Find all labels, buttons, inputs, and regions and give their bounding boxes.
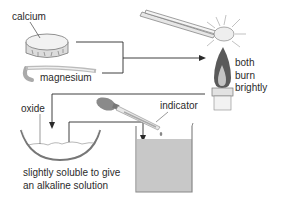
oxide-label: oxide	[21, 103, 45, 115]
calcium-disc-icon	[26, 22, 68, 58]
burn-line-3: brightly	[235, 82, 267, 95]
result-line-1: slightly soluble to give	[23, 167, 120, 180]
evaporating-dish-icon	[21, 114, 100, 160]
connector-to-flame	[76, 42, 200, 73]
burn-result-label: both burn brightly	[235, 57, 267, 95]
arrow-head-icon	[49, 122, 55, 129]
burn-line-1: both	[235, 57, 267, 70]
bunsen-burner-icon	[212, 47, 233, 110]
indicator-label: indicator	[160, 100, 198, 112]
solution-result-label: slightly soluble to give an alkaline sol…	[23, 167, 120, 192]
diagram-canvas: calcium magnesium both burn brightly oxi…	[0, 0, 284, 208]
connector-to-beaker	[69, 122, 143, 142]
calcium-label: calcium	[12, 11, 46, 23]
result-line-2: an alkaline solution	[23, 180, 120, 193]
arrow-head-icon	[199, 55, 206, 61]
dropper-icon	[95, 95, 168, 136]
burn-line-2: burn	[235, 70, 267, 83]
magnesium-label: magnesium	[40, 72, 92, 84]
tongs-icon	[140, 10, 216, 38]
beaker-icon	[136, 123, 193, 192]
